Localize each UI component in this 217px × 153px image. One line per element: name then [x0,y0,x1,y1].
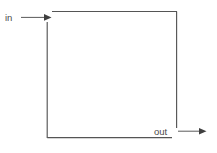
out-arrow-head [199,128,207,134]
input-label: in [5,12,12,23]
diagram-canvas: in out [0,0,217,153]
in-arrow-head [44,14,52,21]
flow-diagram: in out [0,0,217,153]
output-label: out [154,126,168,137]
